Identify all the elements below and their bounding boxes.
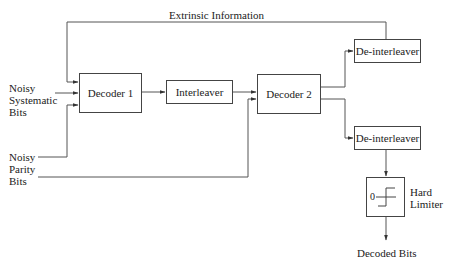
systematic-label-line3: Bits xyxy=(9,106,27,118)
interleaver-block: Interleaver xyxy=(166,80,233,104)
deinterleaver-bottom-block: De-interleaver xyxy=(354,126,421,150)
parity-to-decoder2-line xyxy=(38,99,256,177)
hard-limiter-label-line1: Hard xyxy=(410,186,432,198)
parity-to-decoder1-line xyxy=(38,105,78,157)
hard-limiter-label-line2: Limiter xyxy=(410,198,443,210)
decoder2-to-deinterleaver-bottom-line xyxy=(320,99,353,138)
decoder-1-block: Decoder 1 xyxy=(79,73,142,113)
extrinsic-information-label: Extrinsic Information xyxy=(169,9,264,21)
step-function-icon xyxy=(366,177,405,217)
systematic-label-line2: Systematic xyxy=(9,94,57,106)
hard-limiter-block: 0 xyxy=(366,177,405,217)
decoded-bits-label: Decoded Bits xyxy=(357,247,417,259)
parity-label-line3: Bits xyxy=(9,175,27,187)
decoder-2-block: Decoder 2 xyxy=(257,74,321,114)
parity-label-line1: Noisy xyxy=(9,151,35,163)
systematic-label-line1: Noisy xyxy=(9,82,35,94)
decoder2-to-deinterleaver-top-line xyxy=(320,51,353,87)
deinterleaver-top-block: De-interleaver xyxy=(354,39,421,63)
parity-label-line2: Parity xyxy=(9,163,35,175)
